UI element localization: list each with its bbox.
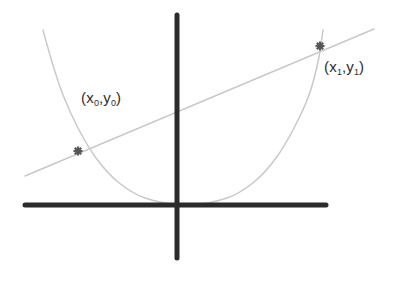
y-var-p1: y [346, 58, 354, 75]
y-sub-p1: 1 [354, 67, 359, 77]
marker-center [77, 150, 80, 153]
parabola-curve [43, 30, 323, 205]
figure-canvas [0, 0, 400, 282]
x-var-p1: x [329, 58, 337, 75]
marker-center [319, 45, 322, 48]
y-var-p0: y [103, 89, 111, 106]
paren-close-p1: ) [359, 58, 364, 75]
parabola-secant-figure: (x0,y0) (x1,y1) [0, 0, 400, 282]
point-label-x0-y0: (x0,y0) [81, 90, 121, 105]
x-sub-p1: 1 [337, 67, 342, 77]
paren-close-p0: ) [116, 89, 121, 106]
x-var-p0: x [86, 89, 94, 106]
point-x0-y0 [74, 147, 83, 156]
point-label-x1-y1: (x1,y1) [324, 59, 364, 74]
point-x1-y1 [316, 42, 325, 51]
y-sub-p0: 0 [111, 98, 116, 108]
x-sub-p0: 0 [94, 98, 99, 108]
